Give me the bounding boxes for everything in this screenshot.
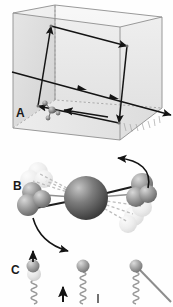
- molecule-atom: [56, 111, 61, 116]
- panel-a: [0, 0, 173, 152]
- connecting-rod: [139, 269, 171, 302]
- box-faces: [13, 5, 162, 140]
- panel-b: [0, 150, 173, 255]
- oscillator-right: [130, 260, 172, 305]
- molecule-atom: [46, 116, 51, 121]
- panel-a-graphic: [0, 0, 173, 152]
- panel-label-c: C: [11, 264, 20, 276]
- atom: [33, 190, 51, 208]
- panel-c-graphic: [0, 250, 173, 307]
- right-atom-group: [126, 173, 157, 207]
- figure-root: A B C: [0, 0, 173, 307]
- motion-arrow-down: [33, 218, 68, 251]
- panel-label-b: B: [13, 180, 22, 192]
- central-atom: [64, 176, 108, 220]
- panel-c: [0, 250, 173, 307]
- oscillator-middle: [77, 260, 90, 305]
- spring-coil: [80, 272, 86, 304]
- panel-b-graphic: [0, 150, 173, 255]
- molecule-atom: [42, 100, 47, 105]
- sphere: [130, 260, 143, 273]
- panel-label-a: A: [16, 107, 25, 119]
- oscillator-left: [27, 260, 42, 305]
- molecule-atom: [48, 106, 55, 113]
- spring-coil: [133, 272, 139, 304]
- sphere: [77, 260, 90, 273]
